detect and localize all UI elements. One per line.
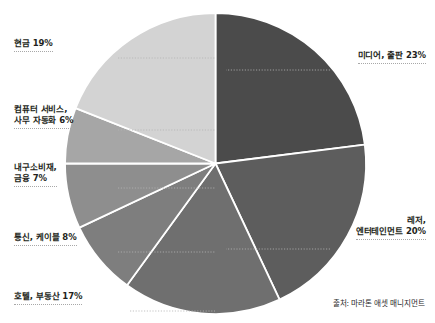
pie-chart-svg (0, 0, 435, 323)
callout-leisure-label-line2: 엔터테인먼트 20% (356, 226, 426, 236)
callout-cash: 현금 19% (14, 38, 53, 52)
callout-hotel-realestate: 호텔, 부동산 17% (14, 291, 82, 305)
callout-durable-goods: 내구소비재, 금융 7% (14, 162, 57, 187)
callout-media-publishing-underline (358, 63, 426, 64)
callout-leisure: 레저, 엔터테인먼트 20% (356, 215, 426, 240)
callout-hotel-realestate-label: 호텔, 부동산 17% (14, 291, 82, 301)
callout-cash-underline (14, 51, 53, 52)
pie-slice-group (65, 13, 366, 314)
callout-durable-goods-label-line1: 내구소비재, (14, 162, 57, 172)
callout-computer-services-label-line2: 사무 자동화 6% (14, 115, 73, 125)
callout-computer-services-label-line1: 컴퓨터 서비스, (14, 104, 67, 114)
callout-computer-services-underline (14, 128, 73, 129)
source-attribution: 출처: 마라톤 애셋 매니지먼트 (333, 297, 425, 308)
callout-leisure-label-line1: 레저, (407, 215, 426, 225)
callout-telecom-underline (14, 245, 77, 246)
callout-durable-goods-label-line2: 금융 7% (14, 173, 47, 183)
pie-slice (216, 13, 365, 164)
callout-cash-label: 현금 19% (14, 38, 53, 48)
callout-durable-goods-underline (14, 186, 57, 187)
callout-hotel-realestate-underline (14, 304, 82, 305)
callout-media-publishing: 미디어, 출판 23% (358, 50, 426, 64)
callout-telecom-label: 통신, 케이블 8% (14, 232, 77, 242)
pie-chart-figure: 현금 19% 컴퓨터 서비스, 사무 자동화 6% 내구소비재, 금융 7% 통… (0, 0, 435, 323)
callout-computer-services: 컴퓨터 서비스, 사무 자동화 6% (14, 104, 73, 129)
callout-telecom: 통신, 케이블 8% (14, 232, 77, 246)
callout-leisure-underline (356, 239, 426, 240)
callout-media-publishing-label: 미디어, 출판 23% (358, 50, 426, 60)
